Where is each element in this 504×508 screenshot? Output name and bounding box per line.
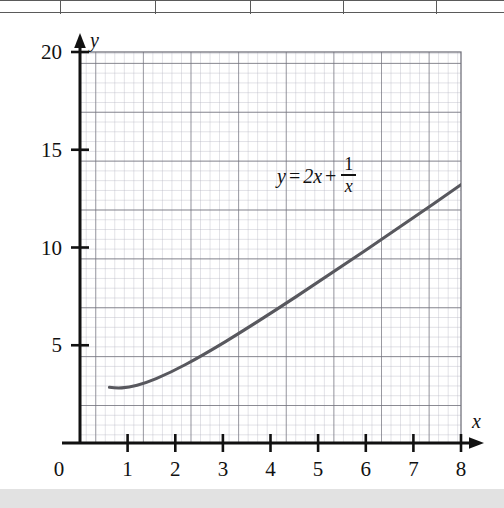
equation-equals: =: [289, 166, 300, 186]
table-divider: [60, 0, 61, 14]
table-divider: [250, 0, 251, 14]
table-divider: [343, 0, 344, 14]
table-bottom-rule: [0, 12, 504, 13]
x-tick-label-0: 0: [54, 457, 65, 481]
x-axis-arrowhead: [469, 437, 484, 449]
y-axis-arrowhead: [74, 33, 86, 48]
graph-svg: 20 15 10 5 0 1 2 3 4 5 6 7 8 y x: [0, 14, 504, 489]
y-tick-label-5: 5: [52, 333, 63, 357]
y-axis-label: y: [88, 29, 99, 52]
x-tick-label-1: 1: [122, 457, 133, 481]
equation-annotation: y = 2x + 1 x: [277, 156, 356, 196]
x-axis-label: x: [471, 410, 481, 432]
table-top-rule: [0, 0, 504, 1]
x-tick-label-4: 4: [265, 457, 276, 481]
equation-lhs: y: [277, 166, 286, 186]
x-tick-label-7: 7: [408, 457, 419, 481]
x-tick-label-8: 8: [456, 457, 467, 481]
x-tick-label-2: 2: [170, 457, 181, 481]
fraction-numerator: 1: [341, 155, 356, 173]
table-fragment: [0, 0, 504, 14]
equation-fraction: 1 x: [341, 155, 356, 195]
graph-figure: 20 15 10 5 0 1 2 3 4 5 6 7 8 y x y = 2x …: [0, 14, 504, 489]
table-divider: [436, 0, 437, 14]
page-root: 20 15 10 5 0 1 2 3 4 5 6 7 8 y x y = 2x …: [0, 0, 504, 508]
table-divider: [155, 0, 156, 14]
fraction-denominator: x: [342, 177, 356, 195]
y-tick-label-10: 10: [41, 236, 62, 260]
y-tick-label-15: 15: [41, 138, 62, 162]
x-tick-label-5: 5: [313, 457, 324, 481]
bottom-grey-band: [0, 489, 504, 508]
x-tick-label-3: 3: [218, 457, 229, 481]
y-tick-label-20: 20: [41, 40, 62, 64]
equation-term1: 2x: [303, 166, 322, 186]
x-tick-label-6: 6: [361, 457, 372, 481]
equation-plus: +: [325, 166, 336, 186]
